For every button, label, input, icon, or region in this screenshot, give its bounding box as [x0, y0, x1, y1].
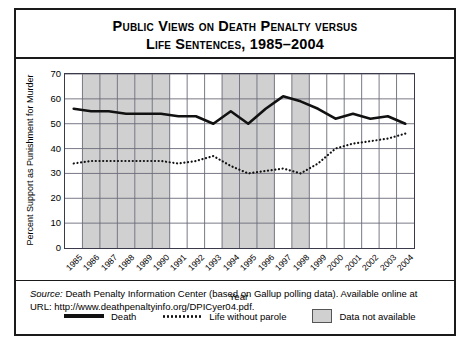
source-url: URL: http://www.deathpenaltyinfo.org/DPI… — [30, 301, 254, 312]
y-tick-30: 30 — [50, 169, 61, 179]
y-tick-40: 40 — [50, 144, 61, 154]
x-tick-1996: 1996 — [256, 253, 276, 273]
x-tick-1998: 1998 — [291, 253, 311, 273]
x-tick-2004: 2004 — [396, 253, 416, 273]
x-tick-1999: 1999 — [309, 253, 329, 273]
chart-svg — [65, 74, 414, 248]
chart-title: Public Views on Death Penalty versus Lif… — [16, 10, 454, 59]
shaded-band-1994 — [222, 74, 239, 248]
x-tick-1993: 1993 — [204, 253, 224, 273]
shaded-band-1995 — [240, 74, 257, 248]
y-tick-60: 60 — [50, 94, 61, 104]
y-tick-0: 0 — [56, 243, 61, 253]
y-tick-70: 70 — [50, 69, 61, 79]
x-tick-1986: 1986 — [82, 253, 102, 273]
plot-area: 1985198619871988198919901991199219931994… — [64, 73, 415, 249]
figure-frame: Public Views on Death Penalty versus Lif… — [14, 8, 456, 336]
source-note: Source: Death Penalty Information Center… — [16, 280, 454, 338]
x-tick-1990: 1990 — [152, 253, 172, 273]
shaded-band-1996 — [257, 74, 274, 248]
x-tick-1985: 1985 — [64, 253, 84, 273]
source-body: Death Penalty Information Center (based … — [63, 288, 418, 299]
chart-title-line-2: Life Sentences, 1985–2004 — [146, 35, 324, 53]
source-label: Source: — [30, 288, 63, 299]
x-tick-1989: 1989 — [134, 253, 154, 273]
x-tick-1991: 1991 — [169, 253, 189, 273]
x-tick-2001: 2001 — [344, 253, 364, 273]
y-axis-label: Percent Support as Punishment for Murder — [22, 65, 38, 255]
x-tick-2002: 2002 — [361, 253, 381, 273]
y-tick-50: 50 — [50, 119, 61, 129]
x-tick-1994: 1994 — [221, 253, 241, 273]
y-axis-label-text: Percent Support as Punishment for Murder — [25, 74, 35, 245]
x-tick-1988: 1988 — [117, 253, 137, 273]
x-tick-2000: 2000 — [326, 253, 346, 273]
y-tick-10: 10 — [50, 218, 61, 228]
x-tick-2003: 2003 — [378, 253, 398, 273]
y-tick-20: 20 — [50, 194, 61, 204]
x-tick-1987: 1987 — [99, 253, 119, 273]
x-tick-1997: 1997 — [274, 253, 294, 273]
chart-title-line-1: Public Views on Death Penalty versus — [113, 17, 358, 35]
x-tick-1992: 1992 — [186, 253, 206, 273]
x-tick-1995: 1995 — [239, 253, 259, 273]
